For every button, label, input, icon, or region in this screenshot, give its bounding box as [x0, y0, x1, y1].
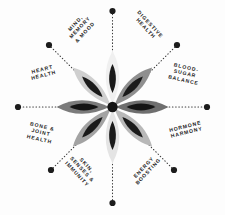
- flower-petal-n: [106, 51, 120, 104]
- flower-center: [107, 102, 117, 112]
- dot-top-right[interactable]: [174, 42, 180, 48]
- flower-petal-s: [106, 110, 120, 163]
- flower-petal-w: [57, 100, 110, 114]
- dot-top[interactable]: [109, 8, 115, 14]
- dot-bottom-left[interactable]: [48, 167, 54, 173]
- dot-left[interactable]: [15, 104, 21, 110]
- dot-right[interactable]: [204, 104, 210, 110]
- dot-top-left[interactable]: [46, 42, 52, 48]
- flower-petal-e: [116, 100, 169, 114]
- radial-diagram-svg: [0, 0, 225, 215]
- dot-bottom[interactable]: [109, 200, 115, 206]
- dot-bottom-right[interactable]: [171, 167, 177, 173]
- wellness-radial-infographic: MIND, MEMORY & MOOD DIGESTIVE HEALTH BLO…: [0, 0, 225, 215]
